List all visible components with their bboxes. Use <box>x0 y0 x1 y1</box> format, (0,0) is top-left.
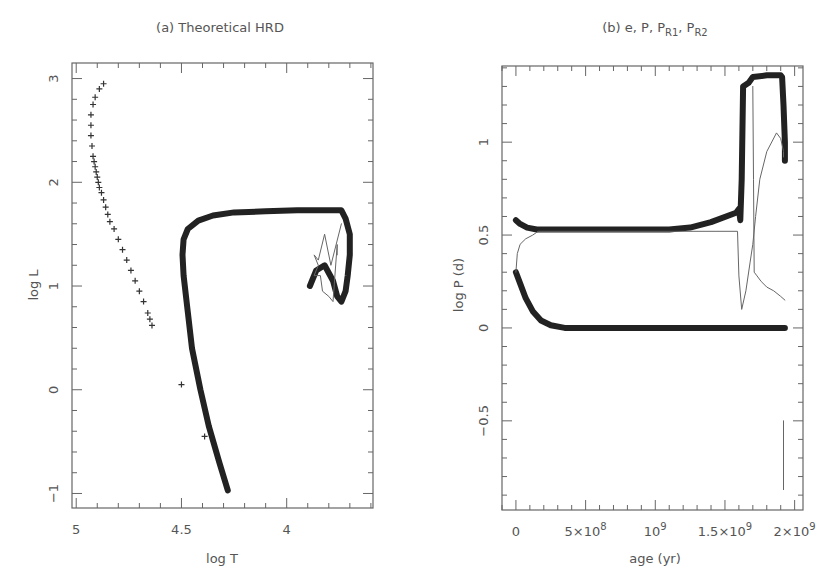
panel-b-title: (b) e, P, PR1, PR2 <box>602 20 707 38</box>
plus-marker <box>136 288 142 294</box>
panel-b-xlabel: age (yr) <box>629 551 681 566</box>
y-tick-label: −0.5 <box>476 405 491 437</box>
plus-marker <box>98 190 104 196</box>
plus-marker <box>88 122 94 128</box>
panel-a-frame <box>72 63 373 508</box>
plus-marker <box>90 101 96 107</box>
plus-marker <box>96 86 102 92</box>
plus-marker <box>91 159 97 165</box>
plus-marker <box>88 133 94 139</box>
plus-marker <box>101 81 107 87</box>
panel-b-ylabel: log P (d) <box>451 258 466 312</box>
panel-b-period: (b) e, P, PR1, PR2 age (yr) log P (d) 05… <box>451 20 816 566</box>
plus-marker <box>202 433 208 439</box>
plus-marker <box>89 143 95 149</box>
plus-marker <box>145 310 151 316</box>
figure: (a) Theoretical HRD log T log L 54.54−10… <box>0 0 830 585</box>
plus-marker <box>90 153 96 159</box>
y-tick-label: 3 <box>46 74 61 82</box>
x-tick-label: 2×109 <box>774 521 816 539</box>
plus-marker <box>132 278 138 284</box>
plus-marker <box>94 174 100 180</box>
panel-b-frame <box>502 66 803 510</box>
plus-marker <box>92 164 98 170</box>
plus-marker <box>115 236 121 242</box>
x-tick-label: 0 <box>512 524 520 539</box>
plus-marker <box>96 184 102 190</box>
plus-marker <box>111 226 117 232</box>
y-tick-label: −1 <box>46 484 61 503</box>
panel-a-title: (a) Theoretical HRD <box>156 20 284 35</box>
panel-a-ylabel: log L <box>26 269 41 301</box>
plus-marker <box>107 219 113 225</box>
plus-marker <box>124 257 130 263</box>
plus-marker <box>105 211 111 217</box>
plus-marker <box>101 197 107 203</box>
panel-a-hrd: (a) Theoretical HRD log T log L 54.54−10… <box>26 20 373 566</box>
x-tick-label: 4 <box>283 522 291 537</box>
plus-marker <box>128 267 134 273</box>
plus-marker <box>120 247 126 253</box>
thick-track-line <box>516 75 785 229</box>
panel-a-data <box>88 81 350 491</box>
panel-a-xlabel: log T <box>206 551 238 566</box>
thick-track-line <box>183 210 350 490</box>
plus-marker <box>147 316 153 322</box>
plus-marker <box>103 204 109 210</box>
plus-marker <box>149 322 155 328</box>
y-tick-label: 2 <box>46 178 61 186</box>
y-tick-label: 0.5 <box>476 225 491 246</box>
thin-track-line <box>753 86 785 300</box>
x-tick-label: 109 <box>644 521 667 539</box>
plus-marker <box>178 382 184 388</box>
y-tick-label: 0 <box>476 324 491 332</box>
plus-marker <box>95 179 101 185</box>
x-tick-label: 5 <box>72 522 80 537</box>
y-tick-label: 1 <box>46 282 61 290</box>
y-tick-label: 1 <box>476 138 491 146</box>
plus-marker <box>141 299 147 305</box>
plus-marker <box>88 112 94 118</box>
x-tick-label: 1.5×109 <box>698 521 752 539</box>
panel-b-data <box>516 75 785 489</box>
plus-marker <box>93 169 99 175</box>
panel-a-ticks: 54.54−10123 <box>46 63 373 537</box>
x-tick-label: 5×108 <box>565 521 607 539</box>
thick-track-line <box>516 272 785 328</box>
y-tick-label: 0 <box>46 386 61 394</box>
x-tick-label: 4.5 <box>171 522 192 537</box>
plus-marker <box>92 94 98 100</box>
